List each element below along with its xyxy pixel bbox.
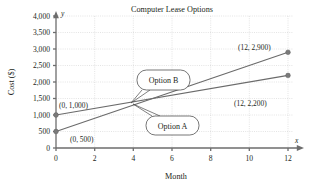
point-label-option-b-end: (12, 2,900) xyxy=(238,43,271,52)
chart-title: Computer Lease Options xyxy=(131,5,213,14)
x-tick-label: 4 xyxy=(131,154,135,163)
y-tick-label: 0 xyxy=(46,144,50,153)
x-tick-label: 8 xyxy=(209,154,213,163)
y-tick-label: 3,500 xyxy=(33,28,50,37)
y-tick-label: 500 xyxy=(39,127,51,136)
data-point-marker xyxy=(54,113,59,118)
y-tick-label: 1,000 xyxy=(33,111,50,120)
y-tick-label: 2,000 xyxy=(33,78,50,87)
y-tick-label: 1,500 xyxy=(33,94,50,103)
x-tick-label: 12 xyxy=(284,154,292,163)
y-axis-symbol: y xyxy=(60,9,65,18)
y-tick-label: 2,500 xyxy=(33,61,50,70)
chart-figure: Computer Lease Options y x 0 5 xyxy=(0,0,315,188)
x-tick-label: 6 xyxy=(170,154,174,163)
data-point-marker xyxy=(286,73,291,78)
x-tick-label: 2 xyxy=(93,154,97,163)
data-point-marker xyxy=(54,129,59,134)
point-label-option-a-start: (0, 1,000) xyxy=(59,101,88,110)
callout-option-a: Option A xyxy=(146,116,199,135)
x-axis-title: Month xyxy=(165,172,187,181)
x-tick-label: 0 xyxy=(54,154,58,163)
x-tick-label: 10 xyxy=(246,154,254,163)
y-tick-label: 4,000 xyxy=(33,12,50,21)
point-label-option-a-end: (12, 2,200) xyxy=(234,99,267,108)
y-axis-title: Cost ($) xyxy=(7,68,16,95)
point-label-option-b-start: (0, 500) xyxy=(70,135,94,144)
callout-option-b: Option B xyxy=(137,70,190,90)
data-point-marker xyxy=(286,50,291,55)
x-axis-symbol: x xyxy=(294,136,299,145)
computer-lease-options-chart: Computer Lease Options y x 0 5 xyxy=(0,0,315,188)
y-tick-label: 3,000 xyxy=(33,45,50,54)
callout-option-a-label: Option A xyxy=(158,122,188,131)
callout-option-b-label: Option B xyxy=(149,76,179,85)
